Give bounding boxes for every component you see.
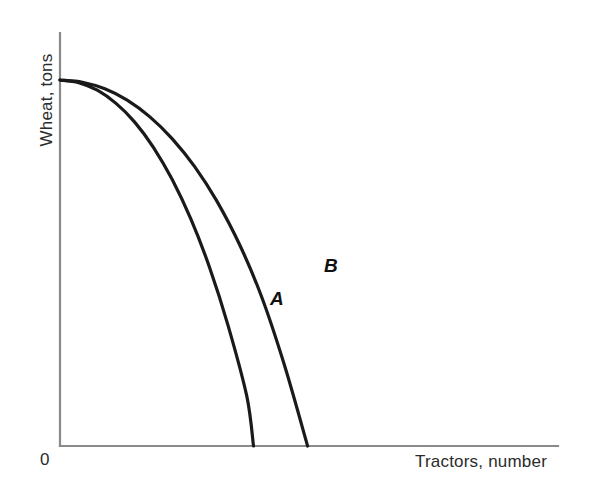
curve-label-b: B (324, 255, 338, 277)
ppf-curve-b (60, 80, 308, 446)
ppf-curve-a (60, 80, 254, 446)
y-axis-label: Wheat, tons (37, 35, 57, 165)
plot-area (0, 0, 592, 490)
ppf-chart-figure: Wheat, tons Tractors, number 0 A B (0, 0, 592, 490)
curve-label-a: A (270, 288, 284, 310)
x-axis-label: Tractors, number (415, 452, 547, 472)
origin-label: 0 (40, 450, 50, 470)
